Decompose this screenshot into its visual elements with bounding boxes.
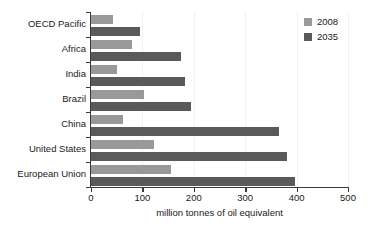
x-axis-tick-label: 0 xyxy=(88,192,93,203)
category-label: OECD Pacific xyxy=(2,18,86,29)
x-axis-tick-label: 200 xyxy=(186,192,202,203)
y-axis-category-labels: OECD PacificAfricaIndiaBrazilChinaUnited… xyxy=(0,0,86,232)
bar xyxy=(91,90,144,99)
bar xyxy=(91,40,132,49)
x-axis-line xyxy=(91,187,349,188)
gridline xyxy=(245,12,246,187)
y-axis-tick xyxy=(86,137,91,138)
bar xyxy=(91,15,113,24)
bar-chart: OECD PacificAfricaIndiaBrazilChinaUnited… xyxy=(0,0,368,232)
category-label: Brazil xyxy=(2,93,86,104)
category-label: India xyxy=(2,68,86,79)
x-axis-tick-label: 500 xyxy=(340,192,356,203)
legend-swatch-icon xyxy=(304,18,312,26)
legend-swatch-icon xyxy=(304,33,312,41)
y-axis-tick xyxy=(86,37,91,38)
legend-label: 2008 xyxy=(317,16,338,27)
x-axis-tick-label: 100 xyxy=(134,192,150,203)
category-label: Africa xyxy=(2,43,86,54)
bar xyxy=(91,52,181,61)
legend-item[interactable]: 2008 xyxy=(304,14,338,29)
bar xyxy=(91,65,117,74)
bar xyxy=(91,177,295,186)
y-axis-tick xyxy=(86,62,91,63)
x-axis-tick-label: 400 xyxy=(289,192,305,203)
chart-legend: 20082035 xyxy=(304,14,338,44)
x-axis-tick-label: 300 xyxy=(237,192,253,203)
bar xyxy=(91,77,185,86)
y-axis-tick xyxy=(86,12,91,13)
y-axis-tick xyxy=(86,162,91,163)
gridline xyxy=(142,12,143,187)
bar xyxy=(91,115,123,124)
bar xyxy=(91,152,287,161)
bar xyxy=(91,27,140,36)
bar xyxy=(91,127,279,136)
bar xyxy=(91,140,154,149)
legend-label: 2035 xyxy=(317,31,338,42)
gridline xyxy=(348,12,349,187)
y-axis-tick xyxy=(86,87,91,88)
category-label: European Union xyxy=(2,168,86,179)
gridline xyxy=(194,12,195,187)
y-axis-tick xyxy=(86,112,91,113)
legend-item[interactable]: 2035 xyxy=(304,29,338,44)
bar xyxy=(91,165,171,174)
gridline xyxy=(297,12,298,187)
category-label: United States xyxy=(2,143,86,154)
bar xyxy=(91,102,191,111)
category-label: China xyxy=(2,118,86,129)
x-axis-title: million tonnes of oil equivalent xyxy=(91,207,348,218)
